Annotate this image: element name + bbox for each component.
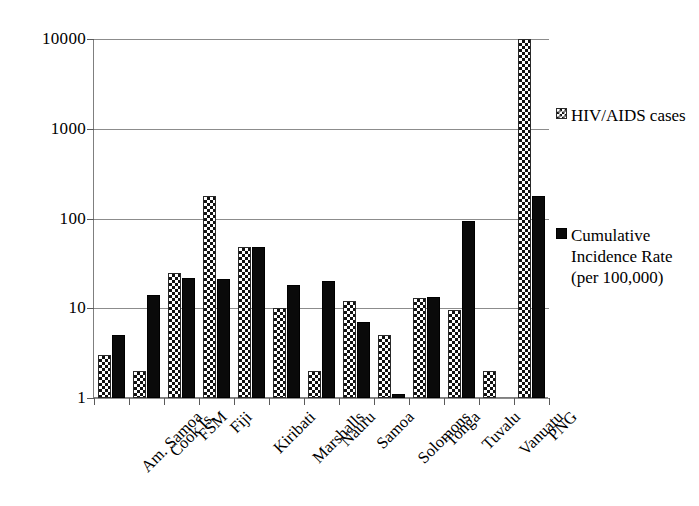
chart-legend: HIV/AIDS casesCumulative Incidence Rate … bbox=[556, 0, 699, 506]
legend-swatch-checker-icon bbox=[556, 108, 567, 119]
x-axis-label-samoa: Samoa bbox=[373, 408, 417, 452]
x-axis-label-tonga: Tonga bbox=[442, 408, 483, 449]
x-axis-label-nauru: Nauru bbox=[337, 408, 378, 449]
legend-label: HIV/AIDS cases bbox=[571, 105, 699, 126]
x-axis-label-fiji: Fiji bbox=[226, 408, 254, 436]
legend-label: Cumulative Incidence Rate (per 100,000) bbox=[571, 225, 699, 288]
hiv-aids-pacific-bar-chart: 110100100010000 Am. SamoaCook Is.FSMFiji… bbox=[0, 0, 699, 506]
legend-swatch-solid-icon bbox=[556, 228, 567, 239]
